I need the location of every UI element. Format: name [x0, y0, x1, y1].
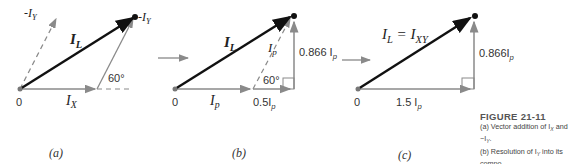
il-equals-ixy-label: IL = IXY	[382, 26, 428, 45]
panel-c-label: (c)	[398, 148, 411, 163]
tip-dot	[472, 13, 478, 19]
il-label: IL	[70, 31, 82, 50]
origin-label: 0	[172, 96, 178, 108]
origin-label: 0	[354, 96, 360, 108]
figure-title: FIGURE 21-11	[480, 111, 577, 122]
vert-label: 0.866Ip	[479, 47, 514, 62]
right-angle-mark	[283, 78, 294, 89]
panel-b-label: (b)	[232, 146, 246, 161]
origin-dot	[356, 87, 361, 92]
half-ip-label: 0.5Ip	[253, 96, 276, 111]
origin-label: 0	[16, 96, 22, 108]
ix-label: IX	[66, 93, 77, 110]
neg-iy-tip-label: -IY	[138, 10, 151, 26]
angle-label: 60°	[108, 72, 125, 84]
panel-a-label: (a)	[49, 146, 63, 161]
panel-c-vectors	[356, 13, 479, 92]
caption-line-b: (b) Resolution of IY into its compo-	[480, 147, 577, 164]
neg-iy-left-label: -IY	[24, 6, 37, 22]
origin-dot	[18, 87, 23, 92]
vert-label: 0.866 Ip	[299, 46, 337, 61]
right-angle-mark	[462, 78, 474, 89]
base-label: 1.5 Ip	[396, 96, 422, 111]
angle-label: 60°	[263, 74, 280, 86]
tip-dot	[291, 13, 297, 19]
ip-diag-label: Ip	[268, 40, 277, 57]
origin-dot	[173, 87, 178, 92]
ip-base-label: Ip	[210, 93, 220, 110]
il-label: IL	[224, 34, 236, 53]
figure-caption: FIGURE 21-11 (a) Vector addition of IX a…	[480, 111, 577, 164]
caption-line-a: (a) Vector addition of IX and −IY.	[480, 122, 577, 147]
